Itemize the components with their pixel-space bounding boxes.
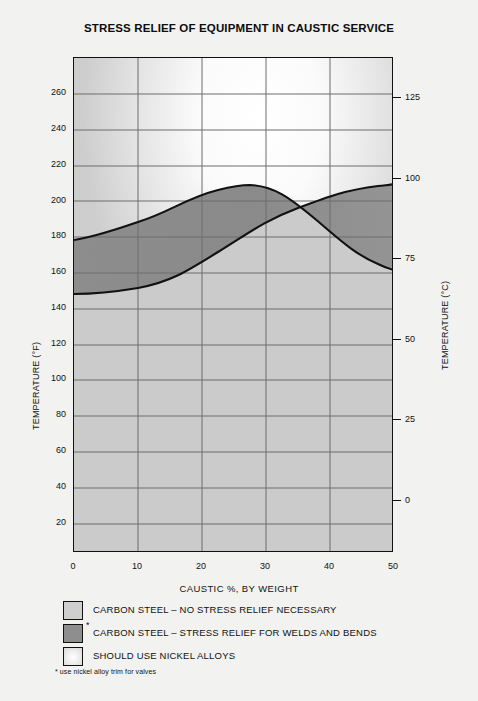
y-tick-left-60: 60 [26,445,66,455]
y-tickmark-right-125 [393,97,401,98]
x-tick-20: 20 [181,561,221,571]
legend-swatch-dark-gray [63,624,83,643]
chart-page: STRESS RELIEF OF EQUIPMENT IN CAUSTIC SE… [0,0,478,701]
legend-footnote-marker: * [86,620,90,630]
y-tickmark-right-100 [393,178,401,179]
legend-label-nickel-alloys: SHOULD USE NICKEL ALLOYS [93,650,235,661]
legend-item-nickel-alloys: SHOULD USE NICKEL ALLOYS [63,646,423,669]
y-tick-right-100: 100 [405,173,445,183]
legend-item-stress-relief: * CARBON STEEL – STRESS RELIEF FOR WELDS… [63,623,423,646]
y-tick-right-0: 0 [405,495,445,505]
y-tick-right-75: 75 [405,253,445,263]
footnote: * use nickel alloy trim for valves [55,668,156,675]
legend-swatch-light-gray [63,601,83,620]
y-tick-left-240: 240 [26,123,66,133]
y-axis-left-title: TEMPERATURE (°F) [31,342,41,430]
y-tickmark-right-50 [393,339,401,340]
plot-area [73,57,393,552]
x-tick-0: 0 [53,561,93,571]
legend-swatch-white-glow [63,647,83,666]
x-tick-10: 10 [117,561,157,571]
x-tick-30: 30 [245,561,285,571]
x-axis-title: CAUSTIC %, BY WEIGHT [0,583,478,594]
legend-item-no-stress-relief: CARBON STEEL – NO STRESS RELIEF NECESSAR… [63,600,423,623]
y-tick-left-140: 140 [26,302,66,312]
legend-label-stress-relief: CARBON STEEL – STRESS RELIEF FOR WELDS A… [93,627,377,638]
y-tick-left-200: 200 [26,195,66,205]
y-tick-left-40: 40 [26,481,66,491]
x-tick-50: 50 [373,561,413,571]
plot-svg [74,58,393,552]
y-tick-left-180: 180 [26,230,66,240]
legend: CARBON STEEL – NO STRESS RELIEF NECESSAR… [63,600,423,669]
x-tick-40: 40 [309,561,349,571]
y-tick-right-25: 25 [405,414,445,424]
y-tickmark-right-25 [393,419,401,420]
y-tick-left-160: 160 [26,266,66,276]
y-tick-left-260: 260 [26,87,66,97]
y-tickmark-right-0 [393,500,401,501]
legend-label-no-stress-relief: CARBON STEEL – NO STRESS RELIEF NECESSAR… [93,604,337,615]
y-tick-left-220: 220 [26,159,66,169]
y-tick-right-125: 125 [405,92,445,102]
page-title: STRESS RELIEF OF EQUIPMENT IN CAUSTIC SE… [0,22,478,34]
y-tick-left-20: 20 [26,517,66,527]
y-axis-right-title: TEMPERATURE (°C) [440,281,450,370]
y-tickmark-right-75 [393,258,401,259]
y-tick-right-50: 50 [405,334,445,344]
